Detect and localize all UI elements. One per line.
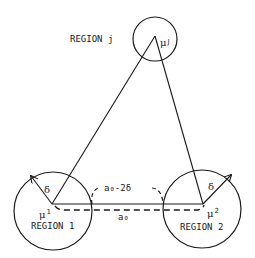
region-diagram: REGION j μJ μ1 REGION 1 μ2 REGION 2 δ δ … — [0, 0, 255, 258]
region-1-label: REGION 1 — [31, 221, 74, 231]
edge-1-to-j — [52, 36, 155, 204]
inner-distance-dashed-right — [152, 188, 163, 204]
edge-j-to-2 — [155, 36, 203, 204]
region-2-label: REGION 2 — [180, 222, 223, 232]
mu-j-label: μJ — [160, 37, 170, 48]
region-j-label: REGION j — [70, 34, 113, 44]
delta-left-label: δ — [44, 184, 50, 195]
inner-distance-dashed-left — [92, 188, 98, 204]
inner-distance-label: a₀-2δ — [104, 183, 131, 193]
center-distance-label: a₀ — [118, 212, 129, 222]
mu-2-label: μ2 — [207, 207, 219, 219]
region-j-circle — [133, 17, 177, 61]
region-1-circle — [14, 172, 92, 250]
delta-right-label: δ — [208, 181, 214, 192]
mu-1-label: μ1 — [39, 208, 51, 220]
region-2-circle — [163, 170, 241, 248]
center-distance-dashed-line — [55, 205, 204, 210]
